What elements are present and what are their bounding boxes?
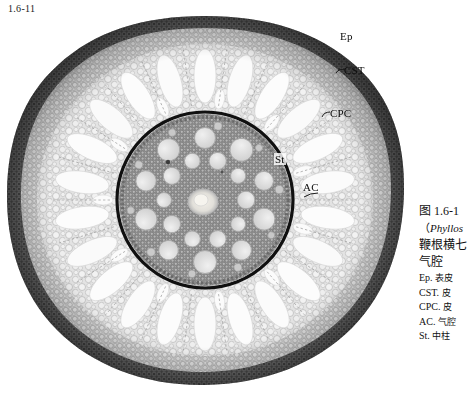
abbreviation-term: 皮 — [442, 288, 451, 298]
abbreviation-term: 气腔 — [438, 317, 456, 327]
abbreviation-term: 中柱 — [432, 331, 450, 341]
abbreviation-term: 表皮 — [435, 273, 453, 283]
callout-label-st: St — [274, 153, 286, 165]
abbreviation-code: AC. — [419, 316, 435, 327]
figure-caption: 图 1.6-1 （Phyllos 鞭根横七 气腔 Ep. 表皮 CST. 皮 C… — [419, 205, 471, 346]
abbreviation-term: 皮 — [443, 302, 452, 312]
abbreviation-cpc: CPC. 皮 — [419, 302, 471, 312]
callout-label-ep: Ep — [340, 30, 353, 42]
caption-species: Phyllos — [430, 222, 463, 234]
caption-title: 图 1.6-1 — [419, 205, 471, 217]
caption-chinese-line-2: 气腔 — [419, 256, 471, 268]
abbreviation-code: Ep. — [419, 272, 433, 283]
callout-label-cpc: CPC — [330, 107, 351, 119]
abbreviation-st: St. 中柱 — [419, 331, 471, 341]
callout-label-ac: AC — [303, 181, 319, 193]
callout-label-cst: CST — [344, 64, 365, 76]
abbreviation-cst: CST. 皮 — [419, 288, 471, 298]
abbreviation-ac: AC. 气腔 — [419, 317, 471, 327]
abbreviation-ep: Ep. 表皮 — [419, 273, 471, 283]
caption-chinese-line-1: 鞭根横七 — [419, 239, 471, 251]
abbreviation-code: St. — [419, 330, 430, 341]
caption-scientific-name: （Phyllos — [419, 223, 471, 234]
caption-paren: （ — [419, 222, 430, 234]
abbreviation-code: CST. — [419, 287, 439, 298]
abbreviation-code: CPC. — [419, 301, 440, 312]
